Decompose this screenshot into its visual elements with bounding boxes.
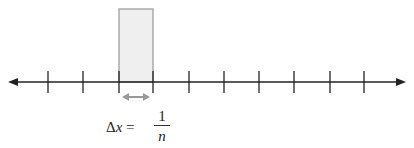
equals-sign: = xyxy=(122,119,134,135)
delta-x-formula: Δx = 1 n xyxy=(106,108,176,148)
shaded-rectangle xyxy=(119,9,153,82)
left-arrowhead-icon xyxy=(8,78,18,86)
fraction: 1 n xyxy=(154,108,170,144)
delta-x-arrow-right-icon xyxy=(143,93,150,101)
fraction-bar xyxy=(154,125,170,126)
diagram-canvas xyxy=(0,0,414,148)
denominator: n xyxy=(154,128,170,144)
delta-x-arrow-left-icon xyxy=(122,93,129,101)
formula-lhs: Δx = xyxy=(106,119,135,136)
numerator: 1 xyxy=(154,108,170,124)
right-arrowhead-icon xyxy=(396,78,406,86)
delta-symbol: Δ xyxy=(106,119,116,135)
